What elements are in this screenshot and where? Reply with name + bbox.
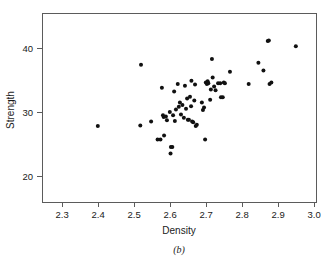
data-point [247, 82, 251, 86]
x-tick-label: 2.7 [200, 209, 213, 220]
data-point [294, 44, 298, 48]
data-point [177, 105, 181, 109]
data-point [164, 114, 168, 118]
data-point [182, 116, 186, 120]
data-point [256, 61, 260, 65]
data-point [195, 123, 199, 127]
x-axis-title: Density [162, 225, 195, 236]
data-point [158, 137, 162, 141]
data-point [139, 63, 143, 67]
data-point [210, 57, 214, 61]
data-point [188, 95, 192, 99]
data-point [173, 119, 177, 123]
data-point [189, 104, 193, 108]
data-point [170, 145, 174, 149]
data-point [223, 81, 227, 85]
x-tick-label: 3.0 [308, 209, 321, 220]
x-tick-label: 2.6 [164, 209, 177, 220]
data-point [138, 123, 142, 127]
data-point [206, 81, 210, 85]
data-point [203, 137, 207, 141]
y-tick-label: 20 [22, 171, 33, 182]
figure-caption: (b) [173, 244, 185, 256]
data-point [172, 90, 176, 94]
x-tick-label: 2.5 [128, 209, 141, 220]
plot-canvas: 2.32.42.52.62.72.82.93.0 203040 Density … [0, 0, 335, 259]
x-tick-label: 2.3 [56, 209, 69, 220]
data-point [180, 103, 184, 107]
data-point [96, 124, 100, 128]
data-point [228, 70, 232, 74]
data-point [212, 84, 216, 88]
x-tick-label: 2.9 [272, 209, 285, 220]
data-point [176, 82, 180, 86]
data-point [169, 151, 173, 155]
data-point [183, 84, 187, 88]
data-point [168, 110, 172, 114]
data-point [165, 118, 169, 122]
data-point [192, 98, 196, 102]
data-point [214, 88, 218, 92]
data-point [184, 107, 188, 111]
data-point [202, 106, 206, 110]
data-point [162, 134, 166, 138]
data-point [218, 81, 222, 85]
data-point [200, 100, 204, 104]
data-point [269, 81, 273, 85]
data-point [160, 86, 164, 90]
y-tick-label: 40 [22, 43, 33, 54]
y-axis-title: Strength [5, 91, 16, 129]
data-point [209, 88, 213, 92]
figure-background [0, 0, 335, 259]
x-tick-label: 2.4 [92, 209, 105, 220]
data-point [267, 38, 271, 42]
x-tick-label: 2.8 [236, 209, 249, 220]
data-point [221, 95, 225, 99]
data-point [193, 83, 197, 87]
y-tick-label: 30 [22, 107, 33, 118]
data-point [261, 68, 265, 72]
data-point [171, 113, 175, 117]
scatter-plot-figure: 2.32.42.52.62.72.82.93.0 203040 Density … [0, 0, 335, 259]
data-point [179, 113, 183, 117]
data-point [189, 79, 193, 83]
data-point [191, 120, 195, 124]
data-point [208, 98, 212, 102]
data-point [149, 120, 153, 124]
data-point [211, 75, 215, 79]
